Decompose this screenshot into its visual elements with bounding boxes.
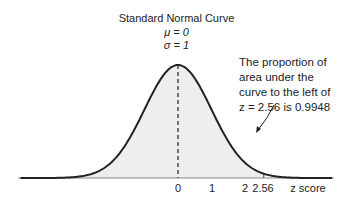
note-line: z = 2.56 is 0.9948	[239, 100, 330, 115]
tick-2-56: 2.56	[252, 182, 273, 194]
note-line: curve to the left of	[239, 85, 330, 100]
x-axis-label: z score	[290, 182, 325, 194]
tick-0: 0	[175, 182, 181, 194]
sigma-label: σ = 1	[0, 39, 353, 51]
note-line: The proportion of	[239, 55, 330, 70]
annotation-text: The proportion of area under the curve t…	[239, 55, 330, 115]
note-line: area under the	[239, 70, 330, 85]
tick-2: 2	[242, 182, 248, 194]
chart-title: Standard Normal Curve	[0, 12, 353, 24]
mu-label: μ = 0	[0, 26, 353, 38]
shaded-area	[21, 65, 264, 178]
tick-1: 1	[209, 182, 215, 194]
